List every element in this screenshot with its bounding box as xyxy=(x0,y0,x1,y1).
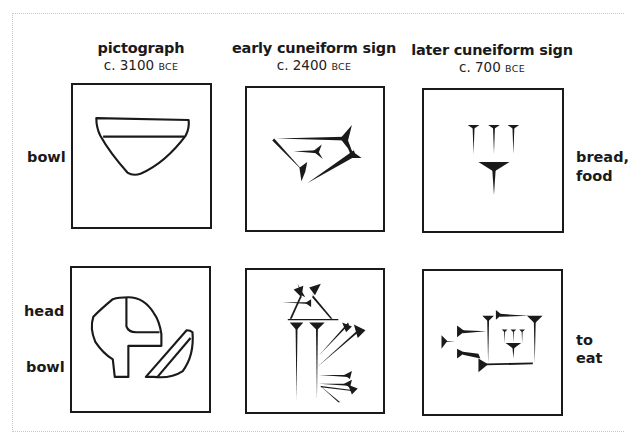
later-cuneiform-eat-icon xyxy=(424,271,561,414)
row2-left-label-bowl: bowl xyxy=(26,357,65,377)
column-header-later-cuneiform: later cuneiform sign c. 700 BCE xyxy=(392,41,592,77)
later-cuneiform-bread-food-icon xyxy=(424,90,562,231)
date-value: c. 700 xyxy=(459,59,501,75)
column-date: c. 2400 BCE xyxy=(214,57,414,75)
sign-box-early-cuneiform-bowl xyxy=(245,86,385,232)
column-title: early cuneiform sign xyxy=(214,39,414,57)
era-label: BCE xyxy=(505,63,525,74)
column-title: later cuneiform sign xyxy=(392,41,592,59)
date-value: c. 2400 xyxy=(277,57,327,73)
sign-box-pictograph-bowl xyxy=(71,83,212,229)
date-value: c. 3100 xyxy=(104,57,154,73)
sign-box-early-cuneiform-eat xyxy=(245,268,385,414)
row2-right-label-line1: to xyxy=(576,330,593,350)
row1-right-label-line2: food xyxy=(576,166,613,186)
column-date: c. 700 BCE xyxy=(392,59,592,77)
pictograph-bowl-icon xyxy=(73,85,210,227)
column-header-pictograph: pictograph c. 3100 BCE xyxy=(41,39,241,75)
era-label: BCE xyxy=(331,61,351,72)
early-cuneiform-bowl-icon xyxy=(247,88,383,230)
row1-right-label-line1: bread, xyxy=(576,147,629,167)
column-title: pictograph xyxy=(41,39,241,57)
sign-box-later-cuneiform-eat xyxy=(422,269,563,416)
row2-left-label-head: head xyxy=(24,301,64,321)
early-cuneiform-eat-icon xyxy=(247,270,383,412)
pictograph-head-bowl-icon xyxy=(72,268,209,411)
sign-box-later-cuneiform-bread xyxy=(422,88,564,233)
sign-box-pictograph-head-bowl xyxy=(70,266,211,413)
column-header-early-cuneiform: early cuneiform sign c. 2400 BCE xyxy=(214,39,414,75)
row2-right-label-line2: eat xyxy=(576,348,603,368)
row1-left-label: bowl xyxy=(27,147,66,167)
column-date: c. 3100 BCE xyxy=(41,57,241,75)
era-label: BCE xyxy=(158,61,178,72)
